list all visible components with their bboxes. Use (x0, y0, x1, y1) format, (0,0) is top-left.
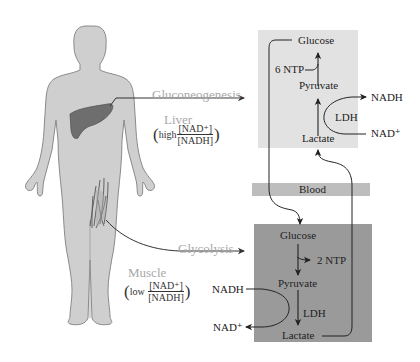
muscle-pyruvate-label: Pyruvate (278, 278, 317, 289)
glycolysis-label: Glycolysis (178, 242, 234, 255)
muscle-label: Muscle (128, 266, 166, 279)
muscle-glucose-label: Glucose (280, 230, 316, 241)
muscle-ntp-label: 2 NTP (317, 255, 346, 266)
liver-nad-label: NAD⁺ (371, 128, 401, 139)
ratio-denominator: [NADH] (177, 135, 213, 146)
muscle-lactate-label: Lactate (282, 330, 314, 341)
ratio-word: low (130, 286, 145, 297)
blood-label: Blood (299, 184, 326, 195)
cori-cycle-diagram (0, 0, 420, 362)
ratio-numerator: [NAD⁺] (148, 280, 184, 292)
muscle-nad-label: NAD⁺ (213, 322, 243, 333)
liver-lactate-label: Lactate (302, 133, 334, 144)
liver-nadh-label: NADH (371, 92, 403, 103)
liver-ntp-label: 6 NTP (275, 64, 304, 75)
muscle-ldh-label: LDH (303, 308, 326, 319)
liver-ldh-label: LDH (335, 112, 358, 123)
liver-pyruvate-label: Pyruvate (299, 80, 338, 91)
ratio-denominator: [NADH] (148, 292, 184, 303)
ratio-numerator: [NAD⁺] (177, 123, 213, 135)
close-paren: ) (214, 125, 220, 144)
close-paren: ) (185, 282, 191, 301)
liver-nad-ratio: (high[NAD⁺][NADH]) (153, 123, 220, 146)
liver-glucose-label: Glucose (298, 35, 334, 46)
muscle-nadh-label: NADH (212, 284, 244, 295)
muscle-nad-ratio: (low [NAD⁺][NADH]) (124, 280, 190, 303)
ratio-word: high (159, 129, 177, 140)
gluconeogenesis-label: Gluconeogenesis (152, 88, 241, 101)
